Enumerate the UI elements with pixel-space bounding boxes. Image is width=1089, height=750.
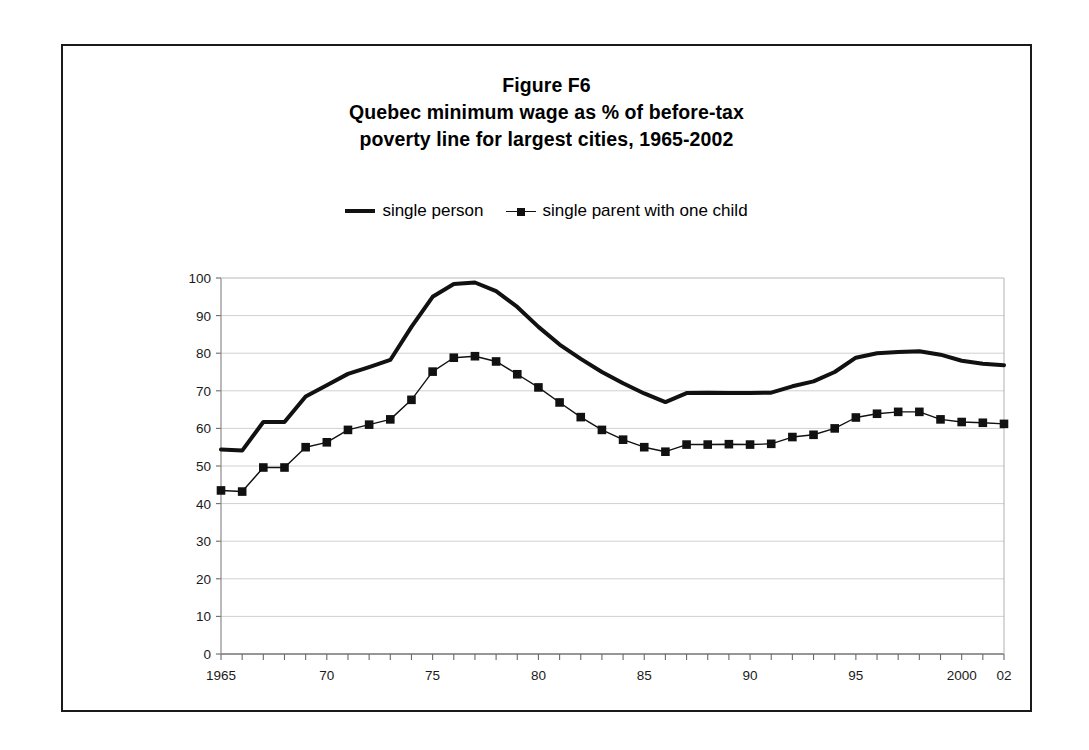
data-point-marker	[323, 438, 332, 447]
y-tick-label: 20	[196, 572, 211, 587]
data-point-marker	[619, 435, 628, 444]
y-tick-label: 30	[196, 534, 211, 549]
data-point-marker	[344, 426, 353, 435]
data-point-marker	[386, 415, 395, 424]
data-point-marker	[873, 409, 882, 418]
x-tick-label: 2000	[947, 668, 977, 683]
legend-item-single-person: single person	[345, 201, 483, 221]
data-point-marker	[428, 367, 437, 376]
data-point-marker	[725, 440, 734, 449]
y-tick-label: 50	[196, 459, 211, 474]
legend-square-marker-swatch-icon	[506, 207, 536, 216]
data-point-marker	[598, 426, 607, 435]
data-point-marker	[703, 440, 712, 449]
data-point-marker	[979, 418, 988, 427]
data-point-marker	[852, 413, 861, 422]
y-tick-label: 60	[196, 421, 211, 436]
grid-lines	[221, 278, 1004, 654]
data-point-marker	[788, 433, 797, 442]
data-point-marker	[936, 415, 945, 424]
data-point-marker	[830, 424, 839, 433]
x-tick-label: 90	[743, 668, 758, 683]
data-point-marker	[280, 463, 289, 472]
legend-item-single-parent: single parent with one child	[506, 201, 748, 221]
legend-line-swatch-icon	[345, 209, 375, 213]
legend-label-single-person: single person	[382, 201, 483, 221]
data-point-marker	[576, 413, 585, 422]
x-axis	[221, 654, 1004, 660]
plot-area: 0102030405060708090100 19657075808590952…	[159, 266, 1019, 696]
data-point-marker	[238, 487, 247, 496]
x-tick-label: 70	[319, 668, 334, 683]
data-point-marker	[555, 398, 564, 407]
legend-label-single-parent: single parent with one child	[543, 201, 748, 221]
chart-legend: single person single parent with one chi…	[63, 201, 1030, 221]
data-point-marker	[661, 447, 670, 456]
title-line-1: Figure F6	[63, 72, 1030, 99]
x-tick-label: 85	[637, 668, 652, 683]
data-point-marker	[407, 396, 416, 405]
y-tick-labels: 0102030405060708090100	[188, 271, 211, 662]
data-point-marker	[492, 357, 501, 366]
data-point-marker	[809, 430, 818, 439]
data-point-marker	[513, 370, 522, 379]
title-line-3: poverty line for largest cities, 1965-20…	[63, 126, 1030, 153]
series-line	[221, 283, 1004, 451]
data-point-marker	[767, 440, 776, 449]
x-tick-label: 95	[848, 668, 863, 683]
x-tick-label: 80	[531, 668, 546, 683]
line-chart: 0102030405060708090100 19657075808590952…	[159, 266, 1019, 696]
data-point-marker	[957, 418, 966, 427]
y-tick-label: 70	[196, 384, 211, 399]
y-axis	[216, 278, 221, 654]
y-tick-label: 90	[196, 309, 211, 324]
x-tick-label: 1965	[206, 668, 236, 683]
figure-title: Figure F6 Quebec minimum wage as % of be…	[63, 72, 1030, 153]
data-point-marker	[534, 383, 543, 392]
y-tick-label: 10	[196, 609, 211, 624]
data-point-marker	[217, 486, 226, 495]
x-tick-label: 75	[425, 668, 440, 683]
y-tick-label: 100	[188, 271, 211, 286]
data-point-marker	[640, 443, 649, 452]
data-point-marker	[259, 463, 268, 472]
data-point-marker	[682, 440, 691, 449]
data-point-marker	[471, 352, 480, 361]
series-single-person	[221, 283, 1004, 451]
y-tick-label: 80	[196, 346, 211, 361]
data-point-marker	[1000, 420, 1009, 429]
legend-marker-square-icon	[517, 208, 525, 216]
data-point-marker	[301, 443, 310, 452]
series-single-parent-with-one-child	[217, 352, 1009, 496]
y-tick-label: 40	[196, 497, 211, 512]
data-point-marker	[894, 408, 903, 417]
x-tick-labels: 1965707580859095200002	[206, 668, 1012, 683]
data-point-marker	[915, 408, 924, 417]
y-tick-label: 0	[203, 647, 211, 662]
data-point-marker	[365, 420, 374, 429]
data-point-marker	[449, 353, 458, 362]
figure-frame: Figure F6 Quebec minimum wage as % of be…	[61, 44, 1032, 712]
x-tick-label: 02	[996, 668, 1011, 683]
title-line-2: Quebec minimum wage as % of before-tax	[63, 99, 1030, 126]
data-point-marker	[746, 440, 755, 449]
